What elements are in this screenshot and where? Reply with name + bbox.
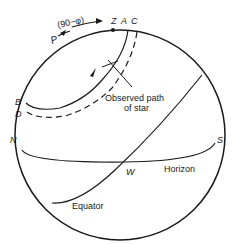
label-B: B <box>15 97 21 107</box>
label-N: N <box>10 135 17 145</box>
label-C: C <box>131 16 138 26</box>
celestial-sphere <box>15 30 225 240</box>
celestial-sphere-diagram: P (90−φ) Z A C B D N S W Horizon Equator… <box>0 0 235 244</box>
label-equator: Equator <box>72 201 104 211</box>
label-A: A <box>120 16 127 26</box>
label-observed-path-1: Observed path <box>105 93 164 103</box>
zenith-dot <box>111 28 115 32</box>
star-path-arrow-icon <box>90 68 96 77</box>
label-P: P <box>49 33 59 46</box>
label-S: S <box>217 135 223 145</box>
arrow-right-icon <box>96 18 103 24</box>
horizon-line <box>22 143 215 162</box>
label-angle: (90−φ) <box>56 15 85 30</box>
label-horizon: Horizon <box>164 164 195 174</box>
label-observed-path-2: of star <box>124 103 149 113</box>
label-D: D <box>15 109 22 119</box>
label-Z: Z <box>110 16 117 26</box>
observed-path-pointer <box>108 60 132 87</box>
label-W: W <box>126 167 136 177</box>
